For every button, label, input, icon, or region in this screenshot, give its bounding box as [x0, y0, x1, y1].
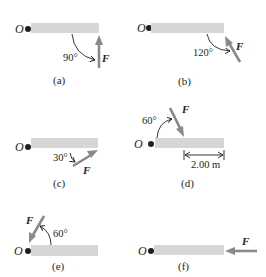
force-label: F: [82, 164, 91, 176]
panel-caption: (e): [52, 260, 65, 273]
panel-c: O 30° F (c): [15, 138, 98, 190]
force-label: F: [181, 103, 190, 115]
force-label: F: [25, 214, 34, 226]
panel-a: O 90° F (a): [15, 22, 110, 87]
rod-bar: [151, 23, 224, 33]
dimension-label: 2.00 m: [191, 159, 220, 170]
origin-label: O: [14, 244, 23, 258]
force-label: F: [235, 40, 244, 52]
angle-label: 90°: [63, 52, 78, 63]
panel-caption: (a): [53, 74, 66, 87]
panel-caption: (c): [53, 177, 66, 190]
angle-label: 60°: [53, 228, 68, 239]
panel-f: O F (f): [138, 235, 257, 273]
rod-bar: [31, 23, 99, 33]
panel-d: O 60° F 2.00 m (d): [134, 103, 224, 190]
angle-arc-icon: [157, 119, 172, 138]
angle-label: 60°: [142, 115, 157, 126]
pivot-dot-icon: [25, 144, 31, 150]
origin-label: O: [15, 22, 24, 36]
rod-bar: [31, 138, 98, 148]
panel-caption: (b): [178, 75, 191, 88]
angle-arc-icon: [40, 226, 51, 245]
pivot-dot-icon: [148, 141, 154, 147]
pivot-dot-icon: [148, 248, 154, 254]
torque-diagram-figure: O 90° F (a) O 120° F (b) O: [0, 0, 266, 277]
rod-bar: [155, 138, 224, 148]
panel-b: O 120° F (b): [137, 21, 244, 88]
diagram-canvas: O 90° F (a) O 120° F (b) O: [0, 0, 266, 277]
force-label: F: [241, 235, 250, 247]
origin-label: O: [134, 137, 143, 151]
angle-label: 120°: [193, 47, 213, 58]
origin-label: O: [138, 244, 147, 258]
pivot-dot-icon: [25, 248, 31, 254]
angle-label: 30°: [53, 152, 68, 163]
origin-label: O: [137, 21, 146, 35]
panel-caption: (d): [181, 177, 194, 190]
panel-caption: (f): [178, 260, 189, 273]
rod-bar: [154, 245, 224, 255]
angle-arc-icon: [70, 153, 75, 162]
pivot-dot-icon: [25, 26, 31, 32]
force-arrow-icon: [225, 247, 257, 255]
force-label: F: [101, 52, 110, 64]
panel-e: O F 60° (e): [14, 214, 98, 273]
rod-bar: [31, 245, 98, 256]
origin-label: O: [15, 140, 24, 154]
